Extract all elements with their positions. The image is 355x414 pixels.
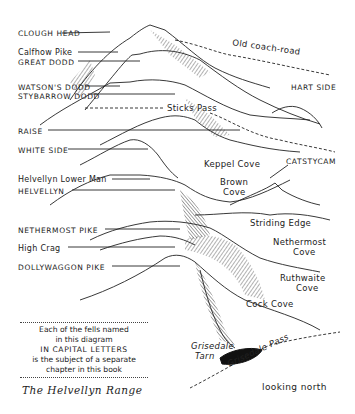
note-bottom-rule <box>20 377 148 378</box>
label-great-dodd: GREAT DODD <box>18 58 75 67</box>
label-high-crag: High Crag <box>18 244 61 253</box>
label-nethermost-cove-line1: Nethermost <box>273 238 326 247</box>
label-striding-edge: Striding Edge <box>250 219 311 228</box>
label-sticks-pass: Sticks Pass <box>167 104 217 113</box>
label-catstycam: CATSTYCAM <box>286 157 336 166</box>
note-line-5: chapter in this book <box>20 365 148 375</box>
label-calfhow-pike: Calfhow Pike <box>18 48 72 57</box>
label-dollywaggon-pike: DOLLYWAGGON PIKE <box>18 263 105 272</box>
label-brown-cove-line2: Cove <box>223 188 246 197</box>
label-watsons-dodd: WATSON'S DODD <box>18 83 91 92</box>
label-ruthwaite-cove-line2: Cove <box>296 284 319 293</box>
label-stybarrow-dodd: STYBARROW DODD <box>18 92 100 101</box>
white-side-ridge <box>80 140 178 178</box>
label-raise: RAISE <box>18 127 43 136</box>
label-keppel-cove: Keppel Cove <box>204 160 260 169</box>
label-hart-side: HART SIDE <box>291 83 336 92</box>
note-line-4: is the subject of a separate <box>20 355 148 365</box>
label-nethermost-pike: NETHERMOST PIKE <box>18 226 98 235</box>
orientation-label: looking north <box>262 382 327 392</box>
label-nethermost-cove-line2: Cove <box>293 248 316 257</box>
label-ruthwaite-cove-line1: Ruthwaite <box>280 274 325 283</box>
diagram-title: The Helvellyn Range <box>22 384 143 396</box>
note-line-1: Each of the fells named <box>20 325 148 335</box>
label-cock-cove: Cock Cove <box>246 300 294 309</box>
label-clough-head: CLOUGH HEAD <box>18 29 80 38</box>
label-grisedale-tarn-line2: Tarn <box>195 352 215 361</box>
high-crag-ridge <box>100 236 195 250</box>
hart-side-hill <box>272 106 322 128</box>
note-top-rule <box>20 322 148 323</box>
capital-letters-note: Each of the fells named in this diagram … <box>20 320 148 380</box>
note-line-2: in this diagram <box>20 335 148 345</box>
label-grisedale-tarn-line1: Grisedale <box>191 342 234 351</box>
label-helvellyn-lower-man: Helvellyn Lower Man <box>18 175 107 184</box>
label-brown-cove-line1: Brown <box>220 178 248 187</box>
label-white-side: WHITE SIDE <box>18 146 68 155</box>
note-line-3: IN CAPITAL LETTERS <box>20 345 148 355</box>
label-helvellyn: HELVELLYN <box>18 187 65 196</box>
